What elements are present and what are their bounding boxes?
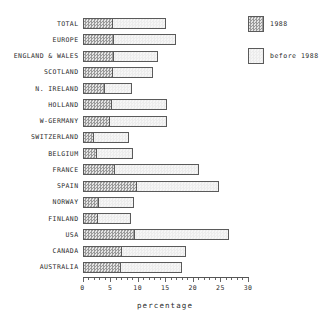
x-tick-minor [88, 278, 89, 280]
category-label: FRANCE [53, 166, 79, 174]
bar-segment-1988 [83, 83, 106, 94]
x-tick-major [220, 278, 221, 282]
bar-segment-before-1988 [114, 51, 158, 62]
bar-segment-1988 [83, 67, 113, 78]
bar-row: SPAIN [83, 181, 219, 192]
bar-segment-1988 [83, 164, 116, 175]
x-tick-minor [143, 278, 144, 280]
bar-segment-1988 [83, 116, 111, 127]
category-label: CANADA [53, 247, 79, 255]
x-tick-minor [154, 278, 155, 280]
x-tick-label: 0 [80, 284, 84, 292]
bar-row: NORWAY [83, 197, 135, 208]
bar-segment-1988 [83, 246, 123, 257]
bar-row: SCOTLAND [83, 67, 154, 78]
x-tick-minor [99, 278, 100, 280]
bar-segment-before-1988 [98, 213, 131, 224]
bar-segment-before-1988 [121, 262, 182, 273]
category-label: AUSTRALIA [40, 263, 79, 271]
bar-segment-before-1988 [113, 18, 167, 29]
x-tick-major [193, 278, 194, 282]
bar-segment-before-1988 [137, 181, 219, 192]
category-label: HOLLAND [48, 101, 78, 109]
bar-chart: TOTALEUROPEENGLAND & WALESSCOTLANDN. IRE… [0, 0, 335, 328]
x-tick-minor [132, 278, 133, 280]
category-label: SWITZERLAND [31, 133, 78, 141]
bar-segment-before-1988 [105, 83, 131, 94]
legend-swatch-1988-icon [248, 16, 264, 32]
x-tick-label: 15 [161, 284, 170, 292]
x-tick-major [110, 278, 111, 282]
x-tick-label: 5 [108, 284, 112, 292]
bar-segment-1988 [83, 229, 136, 240]
bar-segment-1988 [83, 197, 100, 208]
x-tick-minor [237, 278, 238, 280]
bar-segment-before-1988 [94, 132, 129, 143]
category-label: ENGLAND & WALES [14, 52, 79, 60]
legend-label-1988: 1988 [270, 20, 288, 28]
bar-segment-1988 [83, 132, 95, 143]
category-label: TOTAL [57, 20, 79, 28]
x-tick-minor [105, 278, 106, 280]
x-axis-title: percentage [137, 301, 193, 310]
category-label: W-GERMANY [40, 117, 79, 125]
x-tick-minor [182, 278, 183, 280]
bar-segment-before-1988 [114, 34, 176, 45]
bar-segment-1988 [83, 181, 138, 192]
bar-segment-before-1988 [112, 99, 167, 110]
x-tick-minor [127, 278, 128, 280]
bar-segment-before-1988 [135, 229, 228, 240]
x-tick-minor [209, 278, 210, 280]
bar-segment-1988 [83, 262, 122, 273]
x-tick-minor [242, 278, 243, 280]
x-tick-label: 30 [244, 284, 253, 292]
bar-segment-before-1988 [97, 148, 133, 159]
bar-segment-1988 [83, 148, 97, 159]
category-label: FINLAND [48, 215, 78, 223]
category-label: SPAIN [57, 182, 79, 190]
legend-swatch-before-1988-icon [248, 48, 264, 64]
bar-row: EUROPE [83, 34, 177, 45]
bar-segment-1988 [83, 34, 115, 45]
bar-row: AUSTRALIA [83, 262, 182, 273]
x-tick-minor [226, 278, 227, 280]
x-tick-minor [215, 278, 216, 280]
bar-segment-1988 [83, 18, 113, 29]
x-tick-label: 25 [216, 284, 225, 292]
x-tick-major [83, 278, 84, 282]
x-tick-minor [171, 278, 172, 280]
bar-row: N. IRELAND [83, 83, 132, 94]
x-tick-minor [198, 278, 199, 280]
bar-row: FINLAND [83, 213, 132, 224]
bar-row: ENGLAND & WALES [83, 51, 159, 62]
x-tick-major [165, 278, 166, 282]
bar-row: CANADA [83, 246, 186, 257]
category-label: BELGIUM [48, 150, 78, 158]
bar-row: SWITZERLAND [83, 132, 129, 143]
bar-segment-1988 [83, 99, 113, 110]
bar-segment-1988 [83, 213, 98, 224]
bar-row: FRANCE [83, 164, 199, 175]
category-label: EUROPE [53, 36, 79, 44]
bar-segment-before-1988 [110, 116, 167, 127]
bar-segment-before-1988 [113, 67, 153, 78]
bar-row: TOTAL [83, 18, 167, 29]
x-tick-label: 20 [189, 284, 198, 292]
x-tick-minor [116, 278, 117, 280]
category-label: USA [66, 231, 79, 239]
chart-legend: 1988 before 1988 [248, 16, 334, 72]
x-tick-minor [176, 278, 177, 280]
bar-segment-before-1988 [122, 246, 185, 257]
plot-area: TOTALEUROPEENGLAND & WALESSCOTLANDN. IRE… [83, 18, 248, 268]
bar-segment-1988 [83, 51, 114, 62]
x-tick-minor [204, 278, 205, 280]
x-tick-minor [121, 278, 122, 280]
x-tick-minor [231, 278, 232, 280]
category-label: NORWAY [53, 198, 79, 206]
bar-segment-before-1988 [115, 164, 199, 175]
x-tick-major [138, 278, 139, 282]
bar-row: BELGIUM [83, 148, 133, 159]
legend-label-before-1988: before 1988 [270, 52, 319, 60]
x-tick-minor [160, 278, 161, 280]
bar-segment-before-1988 [99, 197, 134, 208]
